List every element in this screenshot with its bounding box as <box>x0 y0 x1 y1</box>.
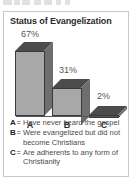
legend: A = Have never heard the gospel B = Were… <box>10 118 126 167</box>
legend-text-a: Have never heard the gospel <box>23 118 126 128</box>
legend-row-b: B = Were evangelized but did not become … <box>10 128 126 147</box>
plot-area: 67% 31% 2% A B C <box>4 27 130 117</box>
legend-equals-c: = <box>17 148 21 158</box>
bar-a-value-label: 67% <box>21 29 39 39</box>
bar-b-front-face <box>52 88 82 116</box>
legend-text-c: Are adherents to any form of Christianit… <box>23 148 126 167</box>
legend-equals-b: = <box>17 128 21 138</box>
chart-card: Status of Evangelization 67% 31% <box>3 11 129 177</box>
bar-b-value-label: 31% <box>59 65 77 75</box>
bar-a-front-face <box>15 51 45 116</box>
axis-baseline <box>16 116 120 117</box>
legend-row-a: A = Have never heard the gospel <box>10 118 126 128</box>
legend-equals-a: = <box>17 118 21 128</box>
cropped-header-text-strip <box>3 0 75 5</box>
legend-key-a: A <box>10 118 16 128</box>
figure-container: Status of Evangelization 67% 31% <box>0 0 133 180</box>
legend-key-b: B <box>10 128 16 138</box>
legend-key-c: C <box>10 148 16 158</box>
legend-text-b: Were evangelized but did not become Chri… <box>23 128 126 147</box>
chart-title: Status of Evangelization <box>10 16 112 26</box>
legend-row-c: C = Are adherents to any form of Christi… <box>10 148 126 167</box>
bar-c-value-label: 2% <box>97 91 110 101</box>
